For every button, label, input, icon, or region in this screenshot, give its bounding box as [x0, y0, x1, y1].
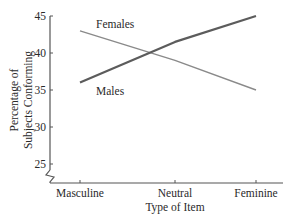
x-category-label: Neutral	[158, 187, 192, 199]
y-axis-title: Percentage ofSubjects Conforming	[8, 51, 35, 149]
series-labels: FemalesMales	[96, 18, 135, 97]
x-category-label: Masculine	[56, 187, 104, 199]
figure-caption-cropped	[40, 219, 291, 223]
y-tick-label: 45	[35, 10, 47, 22]
axis-break-icon	[46, 170, 54, 183]
y-tick-label: 35	[35, 84, 47, 96]
y-tick-label: 30	[35, 121, 47, 133]
x-axis-title-text: Type of Item	[145, 201, 204, 214]
series-label-males: Males	[96, 85, 125, 97]
axis-break-zigzag	[46, 170, 54, 183]
series-line-females	[80, 31, 256, 90]
y-tick-label: 40	[35, 47, 47, 59]
series-label-females: Females	[96, 18, 135, 30]
y-axis-title-line: Percentage of	[8, 68, 21, 131]
x-axis-title: Type of Item	[145, 201, 204, 214]
x-category-label: Feminine	[234, 187, 277, 199]
y-tick-label: 25	[35, 158, 47, 170]
y-axis-title-line: Subjects Conforming	[22, 51, 35, 149]
line-chart: Percentage ofSubjects Conforming 2530354…	[0, 0, 291, 223]
